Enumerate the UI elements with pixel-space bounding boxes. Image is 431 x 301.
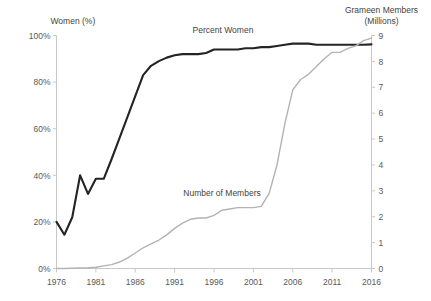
axes-layer: [53, 36, 375, 273]
x-axis-tick-label: 1976: [47, 277, 66, 287]
left-axis-tick-label: 80%: [33, 77, 50, 87]
chart-container: 0%20%40%60%80%100%0123456789197619811986…: [0, 0, 431, 301]
x-axis-tick-label: 2011: [323, 277, 342, 287]
right-axis-tick-label: 7: [379, 82, 384, 92]
right-axis-tick-label: 9: [379, 31, 384, 41]
right-axis-tick-label: 8: [379, 57, 384, 67]
right-axis-tick-label: 0: [379, 264, 384, 274]
right-axis-tick-label: 3: [379, 186, 384, 196]
left-axis-title: Women (%): [51, 16, 96, 26]
right-axis-tick-label: 1: [379, 238, 384, 248]
right-axis-tick-label: 4: [379, 160, 384, 170]
right-axis-tick-label: 6: [379, 108, 384, 118]
left-axis-tick-label: 0%: [38, 264, 51, 274]
x-axis-tick-label: 2006: [283, 277, 302, 287]
x-axis-tick-label: 1991: [165, 277, 184, 287]
number-of-members-annotation: Number of Members: [183, 188, 260, 198]
x-axis-tick-label: 1996: [205, 277, 224, 287]
left-axis-tick-label: 20%: [33, 217, 50, 227]
left-axis-tick-label: 40%: [33, 171, 50, 181]
left-axis-tick-label: 60%: [33, 124, 50, 134]
percent-women-line: [57, 44, 372, 235]
number-of-members-line: [57, 38, 372, 268]
right-axis-tick-label: 2: [379, 212, 384, 222]
labels-layer: 0%20%40%60%80%100%0123456789197619811986…: [29, 5, 418, 287]
x-axis-tick-label: 1981: [86, 277, 105, 287]
x-axis-tick-label: 1986: [126, 277, 145, 287]
series-layer: [57, 38, 372, 268]
right-axis-tick-label: 5: [379, 134, 384, 144]
right-axis-title-line2: (Millions): [365, 16, 399, 26]
x-axis-tick-label: 2016: [362, 277, 381, 287]
left-axis-tick-label: 100%: [29, 31, 51, 41]
x-axis-tick-label: 2001: [244, 277, 263, 287]
right-axis-title-line1: Grameen Members: [345, 5, 418, 15]
percent-women-annotation: Percent Women: [193, 25, 254, 35]
line-chart: 0%20%40%60%80%100%0123456789197619811986…: [0, 0, 431, 301]
